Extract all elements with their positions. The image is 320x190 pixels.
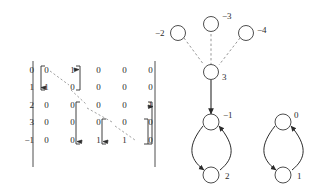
cycle-right-edge-down [264, 126, 276, 170]
cell-r3c3: 0 [118, 117, 131, 127]
tree-nodes [171, 17, 254, 80]
matrix-panel: 0 1 2 3 −1 0 1 0 0 0 1 0 0 0 0 0 0 0 0 1 [0, 58, 160, 170]
node-label-m1: −1 [223, 111, 233, 120]
cell-r2c1: 0 [66, 100, 79, 110]
node-m4 [239, 26, 254, 41]
graph-drawing [152, 0, 320, 190]
cell-r1c0: 1 [40, 82, 53, 92]
node-1 [275, 167, 291, 183]
cell-r1c1: 0 [66, 82, 79, 92]
node-label-m3: −3 [222, 12, 232, 21]
cell-rm1c1: 0 [66, 135, 79, 145]
cycle-left-edge-up [219, 126, 231, 170]
cell-r2c3: 0 [118, 100, 131, 110]
cycle-left [192, 126, 231, 170]
cell-rm1c0: 0 [40, 135, 53, 145]
node-3 [204, 65, 219, 80]
cell-rm1c3: 1 [118, 135, 131, 145]
cycle-right-edge-up [291, 126, 303, 170]
node-label-3: 3 [222, 73, 227, 82]
node-m3 [204, 17, 219, 32]
cycle-right-nodes [275, 114, 291, 183]
row-label-m1: −1 [12, 135, 34, 145]
node-2 [203, 167, 219, 183]
row-label-3: 3 [12, 117, 34, 127]
node-label-2: 2 [225, 172, 230, 181]
graph-panel: −2 −3 −4 3 −1 2 0 1 [152, 0, 320, 190]
node-label-m2: −2 [155, 29, 165, 38]
tree-edge-m2-3 [184, 38, 204, 65]
cell-r0c0: 0 [40, 65, 53, 75]
cell-r0c3: 0 [118, 65, 131, 75]
row-label-2: 2 [12, 100, 34, 110]
node-label-0: 0 [294, 111, 299, 120]
cell-r1c2: 0 [92, 82, 105, 92]
cycle-left-nodes [203, 114, 219, 183]
tree-edge-m4-3 [219, 38, 240, 65]
node-label-m4: −4 [257, 26, 267, 35]
row-label-0: 0 [12, 65, 34, 75]
cell-r2c0: 0 [40, 100, 53, 110]
cell-r3c0: 0 [40, 117, 53, 127]
tree-edges [184, 34, 240, 65]
cycle-left-edge-down [192, 126, 204, 170]
node-m1 [203, 114, 219, 130]
node-m2 [171, 26, 186, 41]
row-label-1: 1 [12, 82, 34, 92]
node-label-1: 1 [297, 172, 302, 181]
matrix-cells: 0 1 0 0 0 1 0 0 0 0 0 0 0 0 1 0 0 0 0 0 … [40, 58, 152, 170]
cell-r1c3: 0 [118, 82, 131, 92]
cycle-right [264, 126, 303, 170]
figure-canvas: 0 1 2 3 −1 0 1 0 0 0 1 0 0 0 0 0 0 0 0 1 [0, 0, 320, 190]
cell-r3c2: 0 [92, 117, 105, 127]
cell-r0c1: 1 [66, 65, 79, 75]
cell-r0c2: 0 [92, 65, 105, 75]
matrix-row-labels: 0 1 2 3 −1 [12, 58, 34, 170]
cell-r3c1: 0 [66, 117, 79, 127]
cell-rm1c2: 1 [92, 135, 105, 145]
node-0 [275, 114, 291, 130]
cell-r2c2: 0 [92, 100, 105, 110]
